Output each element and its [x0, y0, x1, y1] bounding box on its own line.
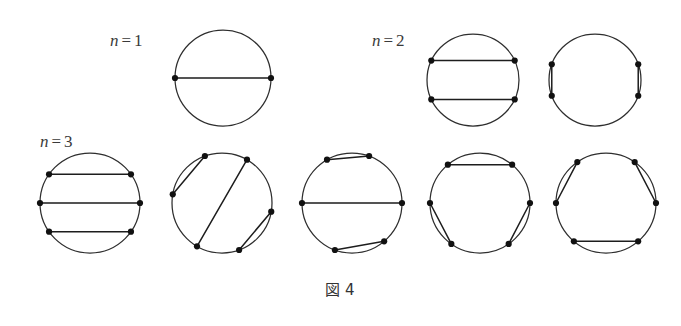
vertex-dot-1: [324, 157, 330, 163]
vertex-dot-5: [448, 241, 454, 247]
chord-diagram-canvas: n=1n=2n=3 図 4: [0, 0, 681, 326]
circle-outline: [430, 153, 530, 253]
label-value: 2: [396, 31, 405, 50]
vertex-dot-3: [512, 96, 518, 102]
vertex-dot-3: [527, 200, 533, 206]
vertex-dot-6: [37, 200, 43, 206]
circle-outline: [549, 34, 641, 126]
vertex-dot-6: [553, 200, 559, 206]
vertex-dot-5: [194, 243, 200, 249]
vertex-dot-2: [128, 171, 134, 177]
n1-diagram-1: [172, 30, 274, 126]
vertex-dot-2: [366, 153, 372, 159]
vertex-dot-4: [381, 238, 387, 244]
label-value: 1: [134, 31, 143, 50]
n3-diagram-1: [37, 153, 143, 253]
vertex-dot-1: [46, 171, 52, 177]
label-relation: =: [384, 31, 394, 50]
vertex-dot-3: [268, 209, 274, 215]
vertex-dot-4: [428, 96, 434, 102]
vertex-dot-5: [46, 229, 52, 235]
label-value: 3: [64, 132, 73, 151]
vertex-dot-2: [635, 61, 641, 67]
vertex-dot-4: [635, 238, 641, 244]
chord-1: [173, 156, 205, 194]
vertex-dot-1: [445, 162, 451, 168]
n2-diagram-2: [549, 34, 642, 126]
label-variable: n: [40, 132, 49, 151]
label-relation: =: [122, 31, 132, 50]
vertex-dot-6: [299, 200, 305, 206]
vertex-dot-4: [506, 241, 512, 247]
vertex-dot-5: [571, 238, 577, 244]
chord-3: [509, 203, 530, 244]
vertex-dot-1: [574, 159, 580, 165]
figure-container: n=1n=2n=3 図 4: [0, 0, 681, 326]
group-label-n1: n=1: [110, 31, 143, 50]
vertex-dot-3: [653, 200, 659, 206]
n3-diagram-4: [427, 153, 533, 253]
vertex-dot-3: [137, 200, 143, 206]
vertex-dot-4: [128, 229, 134, 235]
vertex-dot-2: [512, 57, 518, 63]
circle-outline: [427, 34, 519, 126]
vertex-dot-1: [428, 57, 434, 63]
chord-2: [197, 160, 247, 247]
figure-caption-layer: 図 4: [325, 281, 354, 299]
vertex-dot-3: [635, 93, 641, 99]
vertex-dot-1: [549, 61, 555, 67]
chord-diagrams-layer: [37, 30, 659, 253]
n3-diagram-2: [170, 153, 275, 253]
group-label-n2: n=2: [372, 31, 405, 50]
vertex-dot-2: [509, 162, 515, 168]
vertex-dot-3: [399, 200, 405, 206]
vertex-dot-4: [549, 93, 555, 99]
chord-3: [335, 241, 384, 250]
vertex-dot-5: [332, 247, 338, 253]
figure-caption: 図 4: [325, 281, 354, 299]
group-labels-layer: n=1n=2n=3: [40, 31, 405, 151]
chord-2: [430, 203, 451, 244]
label-variable: n: [372, 31, 381, 50]
n2-diagram-1: [427, 34, 519, 126]
vertex-dot-1: [202, 153, 208, 159]
circle-outline: [556, 153, 656, 253]
vertex-dot-6: [170, 191, 176, 197]
n3-diagram-5: [553, 153, 659, 253]
vertex-dot-2: [268, 75, 274, 81]
label-relation: =: [52, 132, 62, 151]
vertex-dot-1: [172, 75, 178, 81]
label-variable: n: [110, 31, 119, 50]
chord-3: [239, 212, 271, 250]
vertex-dot-6: [427, 200, 433, 206]
vertex-dot-4: [236, 247, 242, 253]
chord-2: [635, 162, 656, 203]
n3-diagram-3: [299, 153, 405, 253]
chord-1: [556, 162, 577, 203]
vertex-dot-2: [632, 159, 638, 165]
group-label-n3: n=3: [40, 132, 73, 151]
vertex-dot-2: [244, 157, 250, 163]
